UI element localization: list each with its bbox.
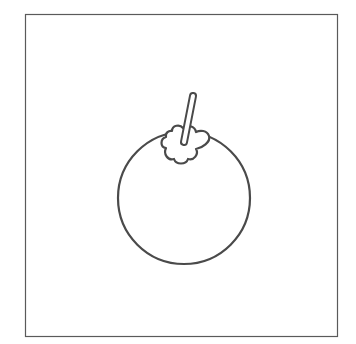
fruit-illustration <box>0 0 356 344</box>
frame-border <box>26 15 338 337</box>
illustration-canvas: fruit outline (tomato/mangosteen-like) w… <box>0 0 356 344</box>
